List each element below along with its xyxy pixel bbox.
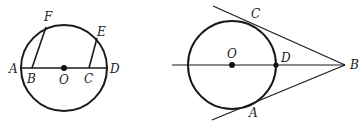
left-label-O: O <box>59 73 69 87</box>
left-label-F: F <box>43 10 53 24</box>
right-label-D: D <box>280 51 291 65</box>
right-center-point-O <box>229 62 235 68</box>
left-center-point-O <box>61 65 67 71</box>
right-point-D <box>273 62 278 67</box>
left-label-E: E <box>96 25 106 39</box>
figure-right: O D B C A <box>172 6 359 120</box>
geometry-diagram: A B O C D F E O D B C A <box>0 0 359 134</box>
figure-left: A B O C D F E <box>8 10 120 111</box>
right-tangent-BA <box>212 65 345 120</box>
left-label-A: A <box>8 62 18 76</box>
right-label-B: B <box>349 58 359 72</box>
left-label-B: B <box>26 72 36 86</box>
right-label-O: O <box>227 47 237 61</box>
right-label-C: C <box>251 7 260 21</box>
right-label-A: A <box>248 106 258 120</box>
left-label-D: D <box>109 62 120 76</box>
left-label-C: C <box>84 72 93 86</box>
left-segment-CE <box>89 38 97 68</box>
